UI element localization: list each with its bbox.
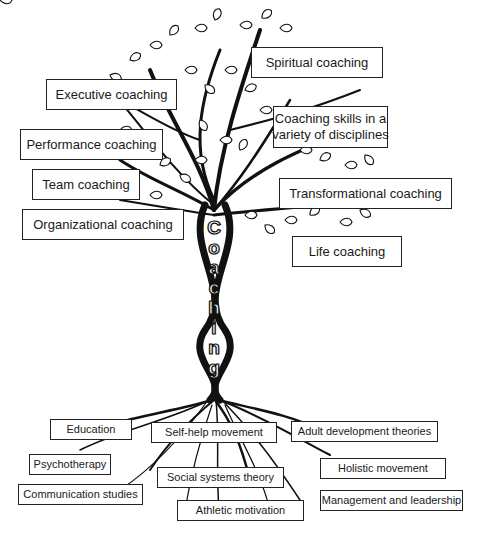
label-social-systems-theory: Social systems theory xyxy=(157,467,284,488)
trunk-letter: h xyxy=(208,298,220,318)
label-transformational-coaching: Transformational coaching xyxy=(279,178,452,209)
trunk-letter: c xyxy=(209,278,220,298)
trunk-letter: o xyxy=(208,238,220,258)
label-organizational-coaching: Organizational coaching xyxy=(22,209,184,240)
label-spiritual-coaching: Spiritual coaching xyxy=(251,47,383,78)
trunk-letter: a xyxy=(209,258,220,278)
label-executive-coaching: Executive coaching xyxy=(46,79,177,110)
label-management-and-leadership: Management and leadership xyxy=(320,490,463,511)
label-life-coaching: Life coaching xyxy=(292,236,402,267)
label-coaching-skills: Coaching skills in a variety of discipli… xyxy=(273,106,388,148)
trunk-letter: i xyxy=(211,318,216,338)
label-education: Education xyxy=(50,419,132,440)
label-self-help-movement: Self-help movement xyxy=(151,422,277,443)
label-psychotherapy: Psychotherapy xyxy=(29,454,111,475)
label-team-coaching: Team coaching xyxy=(32,169,140,200)
label-holistic-movement: Holistic movement xyxy=(320,458,446,479)
trunk-letter: g xyxy=(208,358,220,378)
trunk-letter: C xyxy=(207,218,221,238)
label-performance-coaching: Performance coaching xyxy=(20,129,163,160)
label-communication-studies: Communication studies xyxy=(18,484,143,505)
label-adult-development-theories: Adult development theories xyxy=(291,421,438,442)
label-athletic-motivation: Athletic motivation xyxy=(177,500,304,521)
trunk-title: C o a c h i n g xyxy=(201,218,227,378)
trunk-letter: n xyxy=(208,338,220,358)
